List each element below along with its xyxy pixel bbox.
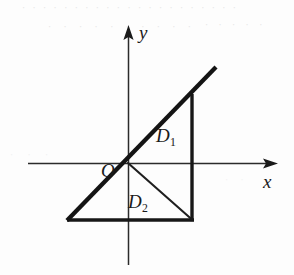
x-axis-label: x xyxy=(263,172,271,191)
region-label-d2-subscript: 2 xyxy=(142,202,148,215)
region-label-d2-letter: D xyxy=(128,191,142,212)
region-label-d1-letter: D xyxy=(156,125,170,146)
origin-label: O xyxy=(101,161,115,180)
y-axis-label: y xyxy=(139,23,147,42)
region-label-d1-subscript: 1 xyxy=(170,136,176,149)
figure-container: · · · · · · · · · · · · · · · · · · · · … xyxy=(0,0,294,275)
region-label-d1: D1 xyxy=(156,126,176,145)
region-label-d2: D2 xyxy=(128,192,148,211)
axis-group xyxy=(28,25,278,265)
